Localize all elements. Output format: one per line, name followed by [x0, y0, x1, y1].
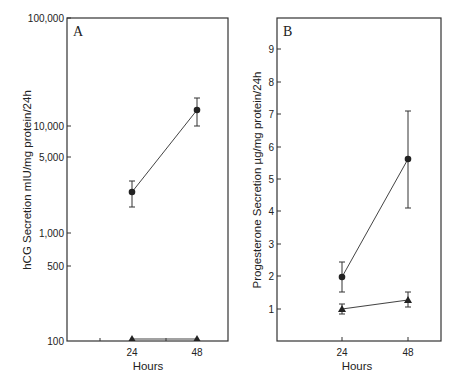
- data-point-circle: [405, 156, 412, 163]
- panel-b-x-axis-label: Hours: [342, 360, 373, 372]
- y-tick-label: 100: [47, 336, 64, 347]
- y-tick-label: 100,000: [28, 13, 65, 24]
- data-point-triangle: [194, 335, 201, 341]
- panel-a-x-axis: 24 48 Hours: [100, 337, 203, 372]
- y-tick-label: 8: [268, 77, 274, 88]
- y-tick-label: 10,000: [33, 121, 64, 132]
- y-tick-label: 3: [268, 239, 274, 250]
- data-point-triangle: [404, 296, 412, 303]
- panel-b: B 9 8 7 6 5 4 3 2 1 Progesterone Secreti…: [251, 18, 441, 372]
- panel-a-y-axis: 100,000 10,000 5,000 1,000 500 100 hCG S…: [21, 13, 71, 347]
- x-tick-label: 48: [402, 347, 414, 358]
- panel-a-y-axis-label: hCG Secretion mIU/mg protein/24h: [21, 90, 33, 270]
- figure: A 100,000 10,000 5,000 1,000 500 100 hCG…: [0, 0, 458, 380]
- panel-b-series-circles: [339, 111, 412, 292]
- y-tick-label: 500: [47, 261, 64, 272]
- data-point-circle: [339, 274, 346, 281]
- panel-a-letter: A: [73, 24, 84, 39]
- y-tick-label: 6: [268, 142, 274, 153]
- y-tick-label: 7: [268, 109, 274, 120]
- x-tick-label: 24: [126, 347, 138, 358]
- y-tick-label: 9: [268, 44, 274, 55]
- panel-a-series-circles: [129, 98, 201, 207]
- y-tick-label: 2: [268, 271, 274, 282]
- panel-a: A 100,000 10,000 5,000 1,000 500 100 hCG…: [21, 13, 228, 372]
- panel-b-x-axis: 24 48 Hours: [336, 337, 414, 372]
- panel-a-series-triangles: [129, 335, 201, 341]
- panel-b-y-axis-label: Progesterone Secretion µg/mg protein/24h: [251, 72, 263, 289]
- y-tick-label: 4: [268, 206, 274, 217]
- panel-a-x-axis-label: Hours: [133, 360, 164, 372]
- panel-b-series-triangles: [338, 292, 412, 314]
- data-point-circle: [194, 107, 201, 114]
- y-tick-label: 5,000: [39, 152, 64, 163]
- panel-b-letter: B: [283, 24, 292, 39]
- y-tick-label: 5: [268, 174, 274, 185]
- y-tick-label: 1,000: [39, 228, 64, 239]
- data-point-triangle: [129, 335, 136, 341]
- x-tick-label: 48: [191, 347, 203, 358]
- y-tick-label: 1: [268, 304, 274, 315]
- x-tick-label: 24: [336, 347, 348, 358]
- data-point-circle: [129, 189, 136, 196]
- panel-a-frame: [67, 18, 228, 341]
- panel-b-frame: [277, 18, 441, 341]
